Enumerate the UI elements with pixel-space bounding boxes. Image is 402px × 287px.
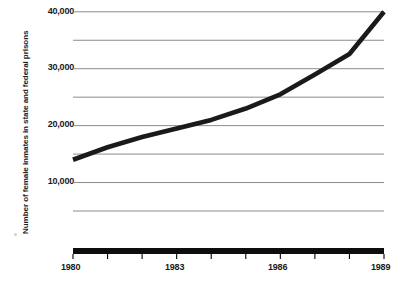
x-tick-label-1983: 1983 bbox=[165, 262, 184, 272]
x-tick-label-1980: 1980 bbox=[61, 262, 80, 272]
x-axis-bar bbox=[73, 248, 384, 254]
x-axis-ticks-group bbox=[73, 254, 384, 259]
line-chart: Number of female inmates in state and fe… bbox=[0, 0, 402, 287]
gridlines-group bbox=[73, 12, 384, 211]
plot-area bbox=[0, 0, 402, 287]
x-tick-label-1989: 1989 bbox=[371, 262, 390, 272]
x-tick-label-1986: 1986 bbox=[268, 262, 287, 272]
scan-artifact-dot bbox=[14, 233, 17, 236]
data-series-line bbox=[73, 12, 384, 160]
